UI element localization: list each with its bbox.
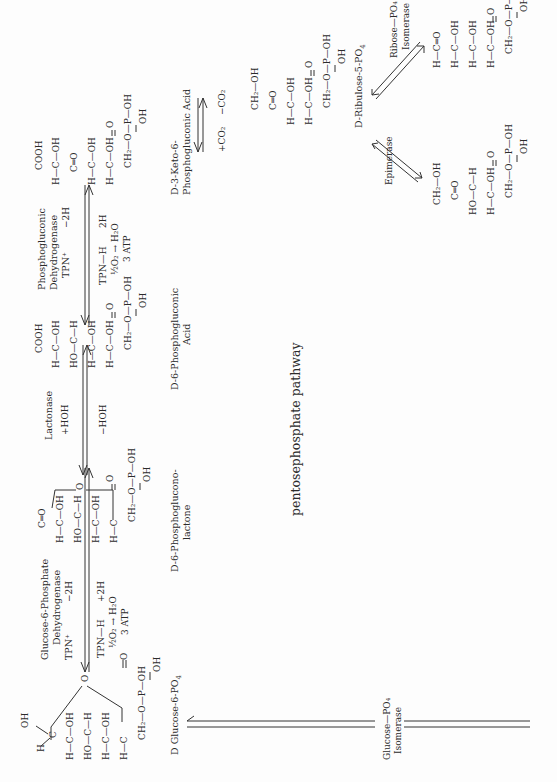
svg-text:O: O [105, 121, 115, 128]
svg-text:−2H: −2H [64, 581, 74, 602]
pathway-diagram: H OH C H—C—OH HO—C—H H—C—OH H—C CH₂—O—P—… [0, 0, 557, 782]
pgdh-arrow [81, 185, 93, 325]
svg-text:C: C [48, 731, 58, 738]
svg-text:lactone: lactone [181, 504, 192, 540]
svg-text:H—C—OH: H—C—OH [486, 20, 496, 68]
keto-phosphogluconic-acid-structure: COOH H—C—OH C═O H—C—OH H—C—OH CH₂—O—P—OH… [34, 94, 148, 185]
svg-text:H—C—OH: H—C—OH [286, 77, 296, 125]
svg-text:D-6-Phosphoglucono-: D-6-Phosphoglucono- [169, 469, 180, 572]
svg-text:+HOH: +HOH [60, 404, 70, 435]
epimerase-arrow: Epimerase [372, 136, 422, 185]
glucose-6-phosphate-label: D Glucose-6-PO4 [169, 674, 183, 755]
svg-text:OH: OH [20, 713, 30, 728]
svg-text:O: O [486, 151, 496, 158]
svg-text:CH₂—O—P—OH: CH₂—O—P—OH [504, 124, 514, 198]
svg-text:Dehydrogenase: Dehydrogenase [51, 570, 62, 645]
svg-text:H—C—OH: H—C—OH [304, 77, 314, 125]
svg-text:+CO₂: +CO₂ [217, 126, 227, 152]
svg-text:H—C—OH: H—C—OH [55, 495, 65, 543]
svg-text:O: O [119, 653, 129, 660]
svg-text:H—C—OH: H—C—OH [87, 320, 97, 368]
svg-text:H—C—OH: H—C—OH [486, 167, 496, 215]
svg-text:Isomerase: Isomerase [393, 707, 403, 754]
ribose-5-phosphate-structure: H—C═O H—C—OH H—C—OH H—C—OH CH₂—O—P—OH O … [432, 0, 529, 68]
svg-text:Phosphogluconic: Phosphogluconic [36, 208, 47, 290]
page-title: pentosephosphate pathway [288, 342, 303, 516]
svg-text:HO—C—H: HO—C—H [468, 167, 478, 215]
svg-text:C═O: C═O [69, 152, 79, 172]
svg-text:O: O [75, 483, 85, 490]
lactone-label: D-6-Phosphoglucono- lactone [169, 469, 192, 572]
svg-text:O: O [486, 8, 496, 15]
svg-text:H—C: H—C [119, 736, 129, 760]
svg-text:H—C—OH: H—C—OH [91, 495, 101, 543]
ring-oxygen: O [80, 675, 90, 682]
svg-text:Phosphogluconic Acid: Phosphogluconic Acid [181, 89, 192, 195]
svg-text:C═O: C═O [450, 180, 460, 200]
svg-text:2H: 2H [98, 214, 108, 228]
svg-text:H—C: H—C [109, 519, 119, 543]
svg-text:OH: OH [152, 657, 162, 672]
svg-text:H—C—OH: H—C—OH [105, 320, 115, 368]
svg-text:OH: OH [519, 0, 529, 12]
svg-text:CH₂—O—P—OH: CH₂—O—P—OH [127, 448, 137, 522]
lactone-structure: C═O H—C—OH HO—C—H H—C—OH H—C CH₂—O—P—OH … [37, 448, 152, 543]
svg-text:−2H: −2H [61, 207, 71, 228]
svg-text:3 ATP: 3 ATP [122, 235, 132, 262]
ribulose-5-phosphate-structure: CH₂—OH C═O H—C—OH H—C—OH CH₂—O—P—OH O OH [250, 34, 347, 125]
svg-text:Isomerase: Isomerase [401, 3, 411, 50]
svg-text:CH₂—O—P—OH: CH₂—O—P—OH [504, 0, 514, 54]
svg-text:HO—C—H: HO—C—H [83, 712, 93, 760]
svg-text:H—C—OH: H—C—OH [450, 20, 460, 68]
svg-text:H—C—OH: H—C—OH [101, 712, 111, 760]
svg-text:CH₂—O—P—OH: CH₂—O—P—OH [137, 666, 147, 740]
svg-text:H—C═O: H—C═O [432, 31, 442, 68]
svg-text:−HOH: −HOH [98, 404, 108, 435]
svg-text:½O₂ → H₂O: ½O₂ → H₂O [108, 596, 118, 648]
svg-text:½O₂ → H₂O: ½O₂ → H₂O [110, 223, 120, 275]
glucose-6-phosphate-structure: H OH C H—C—OH HO—C—H H—C—OH H—C CH₂—O—P—… [20, 653, 162, 760]
svg-text:HO—C—H: HO—C—H [73, 495, 83, 543]
svg-text:CH₂—OH: CH₂—OH [250, 67, 260, 110]
svg-text:COOH: COOH [34, 140, 44, 170]
svg-text:Ribose—PO₄: Ribose—PO₄ [389, 1, 399, 58]
svg-text:OH: OH [337, 49, 347, 64]
svg-text:O: O [304, 61, 314, 68]
svg-text:O: O [105, 303, 115, 310]
svg-text:−CO₂: −CO₂ [217, 89, 227, 115]
svg-text:Glucose—PO₄: Glucose—PO₄ [382, 697, 392, 760]
ribose-isomerase-arrow: Ribose—PO₄ Isomerase [372, 1, 424, 99]
svg-text:C═O: C═O [268, 90, 278, 110]
svg-text:OH: OH [142, 467, 152, 482]
keto-phosphogluconic-acid-label: D-3-Keto-6- Phosphogluconic Acid [169, 89, 192, 195]
ribulose-5-phosphate-label: D-Ribulose-5-PO4 [353, 44, 367, 128]
glucose-isomerase-arrow: Glucose—PO₄ Isomerase [187, 697, 530, 760]
svg-text:H—C—OH: H—C—OH [51, 320, 61, 368]
svg-text:OH: OH [138, 109, 148, 124]
svg-text:H—C—OH: H—C—OH [87, 137, 97, 185]
xylulose-5-phosphate-structure: CH₂—OH C═O HO—C—H H—C—OH CH₂—O—P—OH O OH [432, 124, 529, 215]
svg-text:C═O: C═O [37, 508, 47, 528]
svg-text:Dehydrogenase: Dehydrogenase [48, 215, 59, 290]
svg-text:CH₂—O—P—OH: CH₂—O—P—OH [123, 276, 133, 350]
svg-text:H—C—OH: H—C—OH [51, 137, 61, 185]
svg-text:TPN—H: TPN—H [97, 246, 108, 285]
svg-text:TPN—H: TPN—H [95, 619, 106, 658]
svg-text:H: H [36, 744, 46, 752]
svg-text:TPN⁺: TPN⁺ [63, 634, 74, 660]
textbook-page: H OH C H—C—OH HO—C—H H—C—OH H—C CH₂—O—P—… [0, 0, 557, 782]
svg-text:CH₂—OH: CH₂—OH [432, 162, 442, 205]
svg-text:COOH: COOH [34, 323, 44, 353]
phosphogluconic-acid-label: D-6-Phosphogluconic Acid [169, 288, 192, 390]
svg-text:HO—C—H: HO—C—H [69, 320, 79, 368]
svg-text:Lactonase: Lactonase [43, 391, 54, 440]
svg-text:OH: OH [138, 293, 148, 308]
svg-text:H—C—OH: H—C—OH [65, 712, 75, 760]
svg-text:Epimerase: Epimerase [384, 136, 394, 185]
svg-text:H—C—OH: H—C—OH [468, 20, 478, 68]
svg-text:OH: OH [519, 139, 529, 154]
svg-text:D-6-Phosphogluconic: D-6-Phosphogluconic [169, 288, 180, 390]
svg-text:O: O [105, 475, 115, 482]
svg-text:H—C—OH: H—C—OH [105, 137, 115, 185]
svg-text:CH₂—O—P—OH: CH₂—O—P—OH [123, 94, 133, 168]
